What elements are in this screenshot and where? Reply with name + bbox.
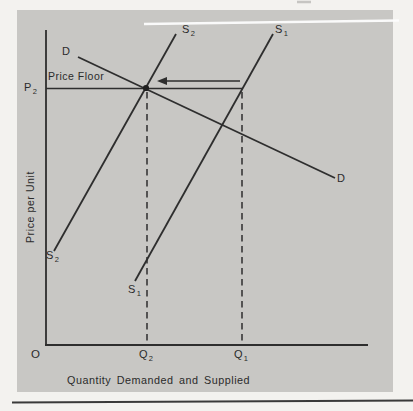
demand-label-left: D <box>62 46 70 57</box>
demand-label-right: D <box>337 173 345 184</box>
p2-sub: 2 <box>33 87 37 96</box>
p2-base: P <box>24 81 32 93</box>
supply-s1-label-bottom: S1 <box>128 284 141 295</box>
q1-axis-label: Q1 <box>234 349 248 360</box>
p2-axis-label: P2 <box>24 82 37 93</box>
q2-axis-label: Q2 <box>139 349 153 360</box>
s1-top-sub: 1 <box>284 29 288 38</box>
supply-s1-label-top: S1 <box>275 24 288 35</box>
s2-bottom-sub: 2 <box>55 255 59 264</box>
q2-sub: 2 <box>149 354 153 363</box>
demand-curve <box>78 57 335 178</box>
supply-s2-label-top: S2 <box>182 24 195 35</box>
chart-canvas <box>0 0 413 411</box>
q1-sub: 1 <box>244 354 248 363</box>
s2-top-sub: 2 <box>191 29 195 38</box>
s1-bottom-base: S <box>128 283 136 295</box>
supply-curve-s2 <box>54 34 176 251</box>
s2-bottom-base: S <box>46 249 54 261</box>
quantity-shift-arrowhead-icon <box>157 77 167 85</box>
supply-s2-label-bottom: S2 <box>46 250 59 261</box>
s1-top-base: S <box>275 23 283 35</box>
figure-page: D S2 S1 Price Floor P2 D S2 S1 O Q2 Q1 P… <box>0 0 413 411</box>
equilibrium-point <box>143 85 149 91</box>
origin-label: O <box>31 349 40 361</box>
s2-top-base: S <box>182 23 190 35</box>
s1-bottom-sub: 1 <box>137 289 141 298</box>
q1-base: Q <box>234 348 243 360</box>
y-axis-title: Price per Unit <box>25 171 36 243</box>
price-floor-label: Price Floor <box>48 71 104 82</box>
q2-base: Q <box>139 348 148 360</box>
page-rule <box>12 401 413 403</box>
x-axis-title: Quantity Demanded and Supplied <box>67 375 250 386</box>
